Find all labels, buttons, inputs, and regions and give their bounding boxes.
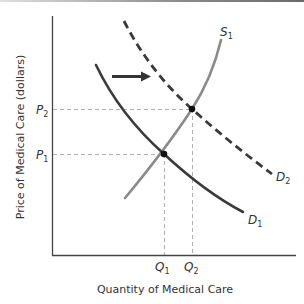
label-p1: P1 [36,148,48,164]
label-p2: P2 [36,103,48,119]
equilibrium-point-2 [189,106,196,113]
label-s1: S1 [220,25,233,41]
guide-lines [53,109,193,255]
label-q1: Q1 [155,260,170,276]
equilibrium-point-1 [161,151,168,158]
label-d2: D2 [276,170,290,186]
label-q2: Q2 [184,260,199,276]
supply-demand-diagram: S1 D1 D2 P2 P1 Q1 Q2 Quantity of Medical… [0,0,304,304]
shift-arrow-icon [112,72,151,82]
x-axis-title: Quantity of Medical Care [97,283,233,296]
label-d1: D1 [248,213,262,229]
supply-curve-s1 [125,40,221,198]
y-axis-title: Price of Medical Care (dollars) [14,55,27,219]
